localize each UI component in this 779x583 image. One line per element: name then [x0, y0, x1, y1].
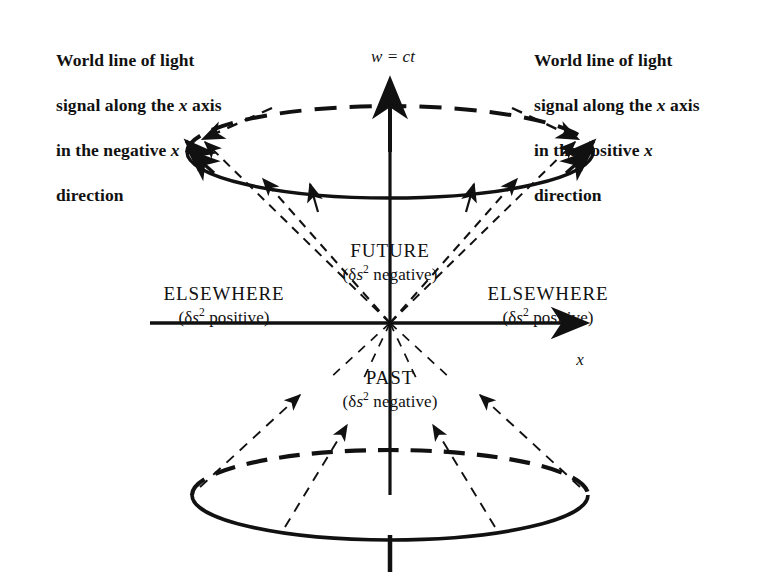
region-past-sign: negative) — [369, 391, 438, 410]
callout-right-line3a: in the positive — [534, 140, 644, 160]
past-generator-left-mid — [285, 425, 347, 527]
callout-left-x-2: x — [171, 140, 180, 160]
callout-right-line4: direction — [534, 185, 602, 205]
past-rim-front-solid — [192, 495, 588, 540]
region-interval-elsewhere-left: (δs2 positive) — [134, 284, 314, 328]
x-axis-label-text: x — [576, 350, 584, 369]
future-surface-arrow-1 — [310, 184, 318, 212]
callout-right-positive-x: World line of light signal along the x a… — [534, 27, 779, 206]
s-symbol-elsewhere-right: s — [516, 307, 523, 326]
callout-left-negative-x: World line of light signal along the x a… — [56, 27, 296, 206]
callout-right-x-1: x — [657, 95, 666, 115]
callout-left-line2a: signal along the — [56, 95, 179, 115]
callout-left-x-1: x — [179, 95, 188, 115]
region-elsewhere-right-sign: positive) — [529, 307, 594, 326]
past-generator-right-outer — [480, 395, 580, 487]
callout-left-line1: World line of light — [56, 50, 195, 70]
region-future-sign: negative) — [369, 264, 438, 283]
callout-left-line4: direction — [56, 185, 124, 205]
callout-left-line3a: in the negative — [56, 140, 171, 160]
x-axis-label: x — [560, 327, 600, 371]
region-interval-future: (δs2 negative) — [300, 241, 480, 285]
region-elsewhere-left-sign: positive) — [205, 307, 270, 326]
region-interval-past: (δs2 negative) — [300, 368, 480, 412]
future-surface-arrow-2 — [466, 184, 474, 212]
past-generator-right-mid — [433, 425, 495, 527]
w-axis-label-text: w = ct — [371, 47, 415, 66]
callout-left-line2b: axis — [188, 95, 222, 115]
s-symbol-elsewhere-left: s — [192, 307, 199, 326]
light-cone-figure: World line of light signal along the x a… — [0, 0, 779, 583]
callout-right-line1: World line of light — [534, 50, 673, 70]
callout-right-line2a: signal along the — [534, 95, 657, 115]
region-interval-elsewhere-right: (δs2 positive) — [458, 284, 638, 328]
w-axis-label: w = ct — [338, 24, 448, 68]
callout-right-line2b: axis — [666, 95, 700, 115]
callout-right-x-2: x — [644, 140, 653, 160]
